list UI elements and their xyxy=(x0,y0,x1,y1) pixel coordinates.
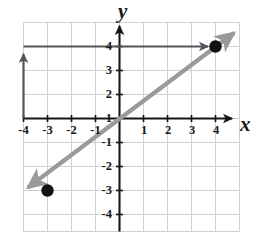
x-tick-label: -3 xyxy=(38,124,58,137)
y-tick-label: 1 xyxy=(92,112,112,125)
x-axis-label: x xyxy=(240,114,251,135)
line-series xyxy=(28,33,234,188)
graph-figure: y x -4 -3 -2 -1 1 2 3 4 4 3 2 1 -1 -2 -3… xyxy=(0,0,262,238)
y-axis-label: y xyxy=(118,1,127,22)
x-tick-label: 3 xyxy=(182,124,202,137)
data-point-marker xyxy=(209,40,221,52)
data-point-marker xyxy=(41,184,53,196)
y-tick-label: 4 xyxy=(92,40,112,53)
y-tick-label: -2 xyxy=(92,160,112,173)
x-tick-label: 2 xyxy=(158,124,178,137)
y-tick-label: -3 xyxy=(92,184,112,197)
x-tick-label: -4 xyxy=(14,124,34,137)
x-tick-label: 1 xyxy=(134,124,154,137)
y-tick-label: 2 xyxy=(92,88,112,101)
x-tick-label: 4 xyxy=(206,124,226,137)
x-tick-label: -2 xyxy=(62,124,82,137)
y-tick-label: 3 xyxy=(92,64,112,77)
y-tick-label: -4 xyxy=(92,208,112,221)
coordinate-plane-svg xyxy=(0,0,262,238)
y-tick-label: -1 xyxy=(92,136,112,149)
